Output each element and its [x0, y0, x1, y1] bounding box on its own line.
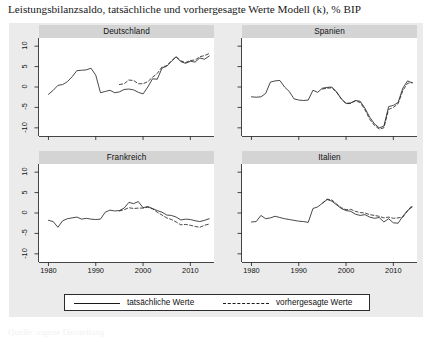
y-tick-label: -10	[20, 245, 29, 261]
x-axis-spanien	[242, 136, 417, 152]
x-tick-label: 1980	[243, 266, 259, 275]
legend-item-predicted: vorhergesagte Werte	[223, 295, 352, 310]
series-line-solid	[48, 56, 209, 94]
plot-spanien	[242, 38, 417, 136]
x-tick-label: 2000	[135, 266, 151, 275]
y-tick-label: -10	[20, 119, 29, 135]
y-tick-label: -5	[20, 225, 29, 241]
panel-title-frankreich: Frankreich	[39, 151, 214, 164]
legend-label-predicted: vorhergesagte Werte	[276, 298, 352, 307]
x-axis-italien: 1980199020002010	[242, 262, 417, 278]
legend-line-dashed-icon	[223, 298, 269, 308]
plot-italien	[242, 164, 417, 262]
y-tick-label: 0	[20, 79, 29, 95]
series-line-solid	[48, 202, 209, 228]
x-tick-label: 2000	[338, 266, 354, 275]
series-line-solid	[251, 200, 412, 224]
series-line-dashed	[322, 83, 412, 130]
y-tick-label: 10	[20, 38, 29, 54]
y-tick-label: 10	[20, 164, 29, 180]
figure-root: Leistungsbilanzsaldo, tatsächliche und v…	[0, 0, 442, 344]
y-tick-label: 5	[20, 184, 29, 200]
y-axis-frankreich: 1050-5-10	[18, 164, 39, 262]
legend-line-solid-icon	[74, 298, 120, 308]
y-tick-label: 5	[20, 58, 29, 74]
y-axis-italien	[221, 164, 242, 262]
y-tick-label: -5	[20, 99, 29, 115]
legend-item-actual: tatsächliche Werte	[74, 295, 194, 310]
figure-caption: Leistungsbilanzsaldo, tatsächliche und v…	[8, 2, 438, 16]
y-axis-spanien	[221, 38, 242, 136]
chart-area: Deutschland 1050-5-10 Spanien Frankreich…	[9, 23, 423, 317]
plot-frankreich	[39, 164, 214, 262]
panel-grid: Deutschland 1050-5-10 Spanien Frankreich…	[9, 23, 423, 275]
series-line-dashed	[119, 207, 209, 227]
x-tick-label: 1990	[88, 266, 104, 275]
panel-deutschland: Deutschland 1050-5-10	[18, 25, 214, 148]
x-axis-frankreich: 1980199020002010	[39, 262, 214, 278]
panel-title-spanien: Spanien	[242, 25, 417, 38]
x-tick-label: 2010	[182, 266, 198, 275]
panel-italien: Italien 1980199020002010	[221, 151, 417, 274]
y-tick-label: 0	[20, 205, 29, 221]
panel-spanien: Spanien	[221, 25, 417, 148]
x-tick-label: 2010	[385, 266, 401, 275]
series-line-dashed	[119, 54, 209, 85]
y-axis-deutschland: 1050-5-10	[18, 38, 39, 136]
x-tick-label: 1980	[40, 266, 56, 275]
panel-title-deutschland: Deutschland	[39, 25, 214, 38]
panel-frankreich: Frankreich 1050-5-10 1980199020002010	[18, 151, 214, 274]
series-line-solid	[251, 80, 412, 127]
x-tick-label: 1990	[291, 266, 307, 275]
chart-legend: tatsächliche Werte vorhergesagte Werte	[64, 294, 370, 311]
x-axis-deutschland	[39, 136, 214, 152]
panel-title-italien: Italien	[242, 151, 417, 164]
source-note: Quelle: eigene Darstellung	[8, 327, 104, 337]
plot-deutschland	[39, 38, 214, 136]
legend-label-actual: tatsächliche Werte	[127, 298, 194, 307]
